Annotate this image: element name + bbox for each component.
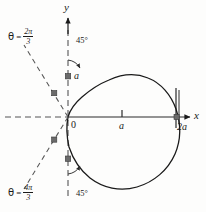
- theta-symbol-lower: θ: [8, 188, 14, 198]
- point-marker-4pi-over-3: [52, 137, 57, 142]
- cardioid-figure: y x 0 a 2a a 45° 45° θ = 2π 3 θ = 4π 3: [0, 0, 206, 212]
- ray-label-4pi-over-3: θ = 4π 3: [8, 184, 33, 202]
- origin-label: 0: [71, 120, 76, 130]
- y-axis-label: y: [64, 2, 69, 13]
- curve-point-label-a: a: [74, 71, 79, 81]
- theta-symbol-upper: θ: [8, 32, 14, 42]
- point-marker-a-lower: [65, 156, 70, 161]
- point-marker-a-upper: [65, 74, 70, 79]
- angle-arc-bottom: [68, 166, 80, 174]
- fraction-numerator-lower: 4π: [23, 184, 33, 194]
- equals-sign-lower: =: [16, 189, 21, 198]
- fraction-2pi-over-3: 2π 3: [23, 28, 33, 46]
- ray-2pi-over-3: [24, 45, 68, 117]
- x-tick-label-a: a: [119, 121, 124, 131]
- point-marker-2pi-over-3: [52, 91, 57, 96]
- fraction-denominator-upper: 3: [26, 37, 30, 46]
- angle-arc-top: [68, 60, 80, 68]
- fraction-4pi-over-3: 4π 3: [23, 184, 33, 202]
- point-marker-2a: [174, 114, 179, 119]
- fraction-numerator-upper: 2π: [23, 28, 33, 38]
- angle-label-bottom: 45°: [76, 189, 88, 198]
- x-tick-label-2a: 2a: [177, 122, 187, 132]
- ray-label-2pi-over-3: θ = 2π 3: [8, 28, 33, 46]
- cardioid-curve: [67, 75, 180, 189]
- equals-sign-upper: =: [16, 33, 21, 42]
- angle-label-top: 45°: [76, 36, 88, 45]
- fraction-denominator-lower: 3: [26, 193, 30, 202]
- ray-4pi-over-3: [24, 117, 68, 189]
- x-axis-label: x: [194, 110, 199, 121]
